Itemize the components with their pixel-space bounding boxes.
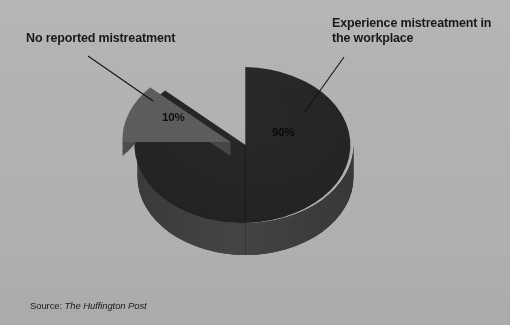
- callout-label-no-reported-mistreatment: No reported mistreatment: [26, 31, 175, 46]
- chart-page: 10% 90% No reported mistreatment Experie…: [0, 0, 510, 325]
- pie-slice-value-experience-mistreatment: 90%: [272, 126, 295, 138]
- pie-slice-value-no-reported-mistreatment: 10%: [162, 111, 185, 123]
- leader-line-no-reported-mistreatment: [88, 56, 153, 101]
- pie-chart-figure: 10% 90%: [0, 0, 510, 325]
- pie-slice-experience-mistreatment-top: [134, 67, 350, 223]
- callout-label-experience-mistreatment: Experience mistreatment in the workplace: [332, 16, 502, 46]
- source-publication: The Huffington Post: [65, 300, 147, 311]
- source-prefix: Source:: [30, 300, 62, 311]
- pie-slice-experience-mistreatment[interactable]: [134, 67, 353, 255]
- source-note: Source: The Huffington Post: [30, 300, 147, 311]
